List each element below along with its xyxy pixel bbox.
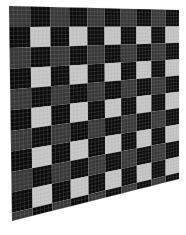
- gray-cell: [151, 9, 165, 26]
- gray-cell: [11, 128, 32, 151]
- gray-cell: [121, 114, 137, 134]
- gray-cell: [121, 79, 137, 98]
- black-cell: [166, 108, 180, 126]
- light-square: [165, 26, 179, 43]
- black-cell: [121, 62, 137, 81]
- light-square: [30, 27, 50, 47]
- black-cell: [121, 96, 137, 115]
- black-cell: [31, 86, 51, 108]
- light-square: [32, 145, 52, 168]
- black-cell: [88, 100, 105, 120]
- black-cell: [88, 63, 105, 83]
- calibration-board-image: [0, 0, 186, 235]
- black-cell: [9, 27, 30, 48]
- light-square: [31, 106, 51, 128]
- light-square: [31, 66, 51, 87]
- light-square: [137, 95, 152, 114]
- gray-cell: [87, 45, 104, 64]
- black-cell: [136, 44, 151, 62]
- gray-cell: [51, 46, 70, 66]
- black-cell: [121, 27, 137, 45]
- gray-cell: [88, 118, 105, 139]
- black-cell: [105, 116, 121, 136]
- gray-cell: [151, 77, 165, 95]
- light-square: [70, 64, 88, 84]
- gray-cell: [10, 47, 31, 68]
- black-cell: [104, 8, 120, 26]
- gray-cell: [88, 82, 105, 102]
- black-cell: [165, 76, 179, 94]
- gray-cell: [151, 143, 165, 162]
- gray-cell: [87, 8, 104, 27]
- black-cell: [151, 126, 165, 145]
- light-square: [165, 92, 179, 110]
- gray-cell: [121, 44, 137, 62]
- light-square: [137, 129, 152, 149]
- black-cell: [137, 78, 152, 97]
- black-cell: [31, 47, 51, 68]
- light-square: [105, 63, 121, 82]
- black-cell: [165, 43, 179, 60]
- gray-cell: [51, 123, 70, 145]
- black-cell: [165, 10, 179, 27]
- gray-cell: [9, 6, 30, 27]
- gray-cell: [50, 7, 69, 27]
- light-square: [104, 27, 120, 45]
- black-cell: [10, 68, 31, 90]
- black-cell: [70, 120, 88, 141]
- black-cell: [70, 83, 88, 104]
- light-square: [165, 59, 179, 76]
- black-cell: [30, 7, 50, 27]
- gray-cell: [151, 43, 165, 61]
- light-square: [70, 139, 88, 161]
- light-square: [136, 27, 151, 45]
- checkerboard-pattern: [0, 0, 186, 235]
- black-cell: [136, 9, 151, 27]
- gray-cell: [121, 148, 136, 169]
- black-cell: [151, 60, 165, 78]
- black-cell: [32, 125, 52, 148]
- black-cell: [69, 46, 87, 66]
- light-square: [105, 134, 121, 155]
- black-cell: [137, 112, 152, 131]
- black-cell: [105, 80, 121, 100]
- gray-cell: [51, 85, 70, 106]
- gray-cell: [121, 9, 137, 27]
- black-cell: [69, 7, 87, 26]
- black-cell: [151, 27, 165, 44]
- light-square: [70, 102, 88, 123]
- black-cell: [50, 27, 69, 47]
- light-square: [166, 124, 179, 143]
- black-cell: [11, 148, 32, 172]
- black-cell: [137, 146, 152, 166]
- black-cell: [51, 104, 70, 126]
- black-cell: [121, 131, 136, 151]
- black-cell: [51, 65, 70, 86]
- light-square: [69, 27, 87, 46]
- black-cell: [105, 45, 121, 64]
- black-cell: [88, 136, 105, 157]
- black-cell: [166, 140, 179, 159]
- gray-cell: [10, 88, 31, 110]
- black-cell: [10, 108, 31, 131]
- black-cell: [87, 27, 104, 46]
- gray-cell: [151, 110, 165, 129]
- light-square: [136, 61, 151, 79]
- black-cell: [151, 93, 165, 112]
- black-cell: [52, 142, 71, 165]
- light-square: [105, 98, 121, 118]
